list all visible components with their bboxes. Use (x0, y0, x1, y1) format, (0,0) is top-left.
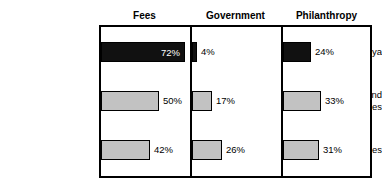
bar-34countries-philanthropy (283, 140, 319, 160)
column-header-label: Fees (133, 10, 156, 21)
bar-value-label: 4% (201, 42, 215, 62)
bar-value-label: 31% (323, 140, 342, 160)
bar-developing-philanthropy (283, 91, 321, 111)
bar-chart-figure: Fees Government Philanthropy Kenya Devel… (0, 0, 382, 192)
bar-value-label: 72% (161, 43, 180, 63)
bar-kenya-government (192, 42, 197, 62)
bar-value-label: 33% (325, 91, 344, 111)
bar-value-label: 24% (315, 42, 334, 62)
plot-frame: 72% 4% 24% 50% 17% 33% 42% 26% 31% (99, 25, 372, 178)
column-header-label: Government (206, 10, 265, 21)
bar-value-label: 26% (226, 140, 245, 160)
bar-kenya-philanthropy (283, 42, 311, 62)
bar-kenya-fees: 72% (101, 42, 185, 62)
bar-developing-government (192, 91, 212, 111)
bar-34countries-fees (101, 140, 150, 160)
bar-value-label: 50% (163, 91, 182, 111)
bar-value-label: 17% (216, 91, 235, 111)
column-header-philanthropy: Philanthropy (281, 9, 372, 23)
bar-developing-fees (101, 91, 159, 111)
bar-value-label: 42% (154, 140, 173, 160)
bar-34countries-government (192, 140, 222, 160)
column-header-label: Philanthropy (296, 10, 357, 21)
column-header-fees: Fees (99, 9, 190, 23)
column-header-government: Government (190, 9, 281, 23)
